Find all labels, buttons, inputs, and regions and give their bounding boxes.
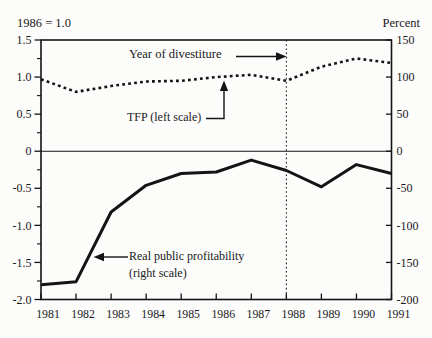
left-axis-tick-label: -1.0 xyxy=(13,219,32,233)
left-axis-tick-label: 0.5 xyxy=(17,107,32,121)
x-axis-tick-label: 1987 xyxy=(247,307,271,321)
x-axis-tick-label: 1990 xyxy=(352,307,376,321)
tfp-arrow-line xyxy=(206,90,224,119)
right-axis-tick-label: -200 xyxy=(397,293,419,307)
left-axis-tick-label: 0 xyxy=(26,144,32,158)
x-axis-tick-label: 1988 xyxy=(282,307,306,321)
left-axis-tick-label: 1.5 xyxy=(17,33,32,47)
divestiture-arrow-head-icon xyxy=(276,52,287,60)
x-axis-tick-label: 1989 xyxy=(317,307,341,321)
profitability-annotation: Real public profitability (right scale) xyxy=(129,248,244,281)
x-axis-tick-label: 1983 xyxy=(106,307,130,321)
tfp-arrow-head-icon xyxy=(220,81,228,92)
right-axis-tick-label: 100 xyxy=(397,70,415,84)
right-axis-tick-label: 150 xyxy=(397,33,415,47)
left-axis-tick-label: -2.0 xyxy=(13,293,32,307)
right-axis-tick-label: 0 xyxy=(397,144,403,158)
tfp-annotation: TFP (left scale) xyxy=(127,110,201,125)
left-axis-tick-label: 1.0 xyxy=(17,70,32,84)
right-axis-tick-label: -50 xyxy=(397,181,413,195)
profitability-arrow-head-icon xyxy=(94,253,105,261)
right-axis-tick-label: -100 xyxy=(397,219,419,233)
profitability-annotation-line2: (right scale) xyxy=(129,265,244,282)
left-axis-tick-label: -0.5 xyxy=(13,181,32,195)
x-axis-tick-label: 1981 xyxy=(36,307,60,321)
divestiture-annotation: Year of divestiture xyxy=(129,47,221,62)
right-axis-tick-label: -150 xyxy=(397,256,419,270)
profitability-annotation-line1: Real public profitability xyxy=(129,248,244,265)
x-axis-tick-label: 1982 xyxy=(71,307,95,321)
figure: 1986 = 1.0 Percent 1.51.00.50-0.5-1.0-1.… xyxy=(0,0,432,338)
x-axis-tick-label: 1986 xyxy=(211,307,235,321)
x-axis-tick-label: 1985 xyxy=(176,307,200,321)
tfp-line xyxy=(41,59,392,92)
right-axis-tick-label: 50 xyxy=(397,107,409,121)
left-axis-tick-label: -1.5 xyxy=(13,256,32,270)
x-axis-tick-label: 1991 xyxy=(387,307,411,321)
x-axis-tick-label: 1984 xyxy=(141,307,165,321)
